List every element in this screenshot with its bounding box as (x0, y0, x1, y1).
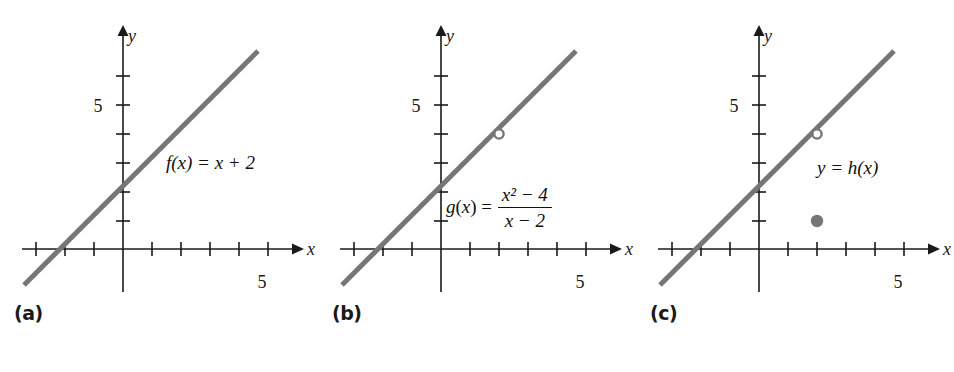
x-axis-arrow (292, 244, 304, 255)
y-tick-label-5: 5 (730, 96, 739, 116)
formula-f-text: f(x) = x + 2 (166, 152, 255, 173)
open-circle-point (494, 129, 503, 138)
y-axis-label: y (444, 26, 454, 46)
formula-g: g(x) = x² − 4x − 2 (446, 185, 553, 233)
y-axis-arrow (118, 25, 129, 36)
panel-c: x y 5 5 y = h(x) (c) (636, 0, 954, 372)
function-line-g (342, 51, 576, 285)
formula-g-numerator: x² − 4 (498, 184, 552, 208)
x-tick-label-5: 5 (576, 272, 585, 292)
panel-label-b: (b) (332, 302, 361, 324)
y-tick-label-5: 5 (94, 96, 103, 116)
y-axis-label: y (762, 26, 772, 46)
filled-circle-point (811, 215, 823, 227)
panel-a-plot: x y 5 5 (0, 0, 318, 372)
formula-h: y = h(x) (817, 157, 878, 179)
formula-f: f(x) = x + 2 (166, 152, 255, 174)
panel-label-c: (c) (650, 302, 677, 324)
three-panel-limit-figure: x y 5 5 f(x) = x + 2 (a) (0, 0, 954, 372)
panel-label-a: (a) (14, 302, 43, 324)
panel-c-plot: x y 5 5 (636, 0, 954, 372)
y-axis-arrow (754, 25, 765, 36)
formula-g-equals: = (481, 196, 492, 217)
x-axis-label: x (624, 239, 633, 259)
y-tick-label-5: 5 (412, 96, 421, 116)
y-axis-arrow (436, 25, 447, 36)
x-axis-arrow (610, 244, 622, 255)
y-axis-label: y (126, 26, 136, 46)
panel-b: x y 5 5 g(x) = x² − 4x − 2 (b) (318, 0, 636, 372)
formula-g-fn: g (446, 196, 456, 217)
x-tick-label-5: 5 (894, 272, 903, 292)
x-axis-label: x (942, 239, 951, 259)
formula-g-denominator: x − 2 (498, 208, 552, 232)
formula-g-fraction: x² − 4x − 2 (498, 184, 552, 232)
x-axis-label: x (306, 239, 315, 259)
x-tick-label-5: 5 (258, 272, 267, 292)
formula-g-var: x (462, 196, 470, 217)
open-circle-point (812, 129, 821, 138)
panel-a: x y 5 5 f(x) = x + 2 (a) (0, 0, 318, 372)
x-axis-arrow (928, 244, 940, 255)
formula-h-text: y = h(x) (817, 157, 878, 178)
